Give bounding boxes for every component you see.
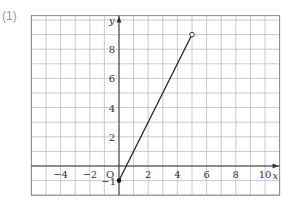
y-tick-label: 8 — [109, 44, 115, 55]
x-tick-label: 10 — [259, 169, 272, 180]
x-tick-label: 2 — [145, 169, 151, 180]
y-tick-label: −1 — [101, 176, 116, 187]
closed-endpoint-marker — [117, 178, 122, 183]
plot-border — [31, 16, 279, 196]
open-endpoint-marker — [190, 32, 195, 37]
y-tick-label: 4 — [109, 103, 115, 114]
y-tick-label: 2 — [109, 132, 115, 143]
coordinate-plane-chart: xyO−4−22468102468−1 — [0, 0, 297, 211]
x-tick-label: −2 — [82, 169, 97, 180]
x-tick-label: 6 — [203, 169, 209, 180]
y-axis-label: y — [108, 15, 115, 26]
x-tick-label: 4 — [174, 169, 180, 180]
y-tick-label: 6 — [109, 73, 115, 84]
x-axis-label: x — [273, 170, 279, 181]
x-tick-label: −4 — [53, 169, 68, 180]
x-tick-label: 8 — [233, 169, 239, 180]
x-axis-arrow-icon — [273, 164, 279, 169]
